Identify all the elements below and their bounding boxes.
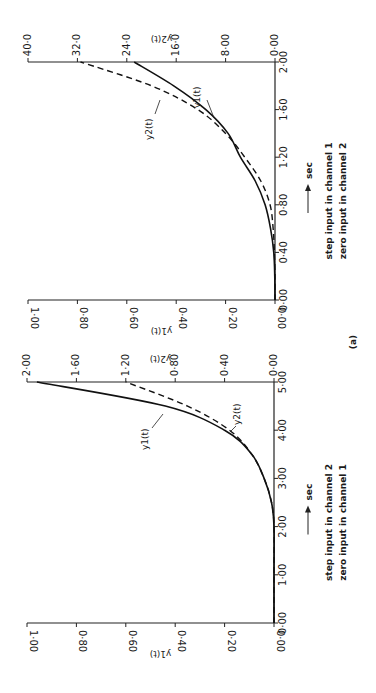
- y1-tick-label: 0·80: [77, 630, 88, 652]
- panel-caption: zero input in channel 2: [338, 143, 348, 260]
- y1-tick-label: 0·60: [128, 307, 139, 329]
- y2-axis-title: y2(t): [150, 354, 172, 364]
- y1-tick-label: 0·00: [276, 307, 287, 329]
- y2-tick-label: 8·00: [220, 34, 231, 56]
- time-tick-label: 0·40: [278, 241, 289, 263]
- y1-tick-label: 1·00: [28, 630, 39, 652]
- y2-tick-label: 0·00: [269, 34, 280, 56]
- y1-tick-label: 1·00: [29, 307, 40, 329]
- time-tick-label: 1·00: [277, 564, 288, 586]
- time-tick-label: 0·80: [278, 194, 289, 216]
- y1-curve-label: y1(t): [140, 428, 150, 450]
- y2-curve-label: y2(t): [144, 118, 154, 140]
- time-tick-label: 3·00: [277, 467, 288, 489]
- y1-tick-label: 0·40: [176, 630, 187, 652]
- y2-tick-label: 0·00: [268, 354, 279, 376]
- figure-label: (a): [348, 335, 358, 349]
- chart-panel-bottom: 0·001·002·003·004·005·000·000·200·400·60…: [21, 354, 348, 659]
- time-tick-label: 1·20: [278, 146, 289, 168]
- y2-tick-label: 1·60: [70, 354, 81, 376]
- figure-canvas: 0·000·400·801·201·602·000·000·200·400·60…: [0, 0, 376, 693]
- time-axis-title: sec: [304, 162, 314, 179]
- leader-arrow-icon: [207, 100, 214, 118]
- y2-curve: [80, 62, 275, 300]
- y1-tick-label: 0·20: [226, 630, 237, 652]
- y1-tick-label: 0·80: [78, 307, 89, 329]
- time-tick-label: 1·60: [278, 98, 289, 120]
- time-tick-label: 4·00: [277, 419, 288, 441]
- y1-axis-title: y1(t): [151, 326, 173, 336]
- y2-tick-label: 0·40: [219, 354, 230, 376]
- y1-axis-title: y1(t): [150, 649, 172, 659]
- leader-arrow-icon: [155, 100, 160, 114]
- leader-arrow-icon: [230, 426, 236, 432]
- chart-panel-top: 0·000·400·801·201·602·000·000·200·400·60…: [22, 34, 348, 336]
- y1-tick-label: 0·00: [275, 630, 286, 652]
- y2-curve-label: y2(t): [232, 403, 242, 425]
- y1-curve: [134, 62, 275, 300]
- time-tick-label: 2·00: [277, 515, 288, 537]
- panel-caption: zero input in channel 1: [338, 464, 348, 581]
- y2-tick-label: 1·20: [120, 354, 131, 376]
- y2-tick-label: 32·0: [71, 34, 82, 56]
- y1-curve-label: y1(t): [192, 86, 202, 108]
- leader-arrow-icon: [152, 414, 163, 428]
- panel-caption: step input in channel 2: [324, 464, 334, 581]
- y2-axis-title: y2(t): [151, 34, 173, 44]
- y1-tick-label: 0·40: [177, 307, 188, 329]
- y2-tick-label: 2·00: [21, 354, 32, 376]
- panel-caption: step input in channel 1: [324, 143, 334, 260]
- y2-tick-label: 40·0: [22, 34, 33, 56]
- time-axis-title: sec: [304, 484, 314, 501]
- y1-tick-label: 0·20: [227, 307, 238, 329]
- y1-tick-label: 0·60: [127, 630, 138, 652]
- y2-tick-label: 24·0: [121, 34, 132, 56]
